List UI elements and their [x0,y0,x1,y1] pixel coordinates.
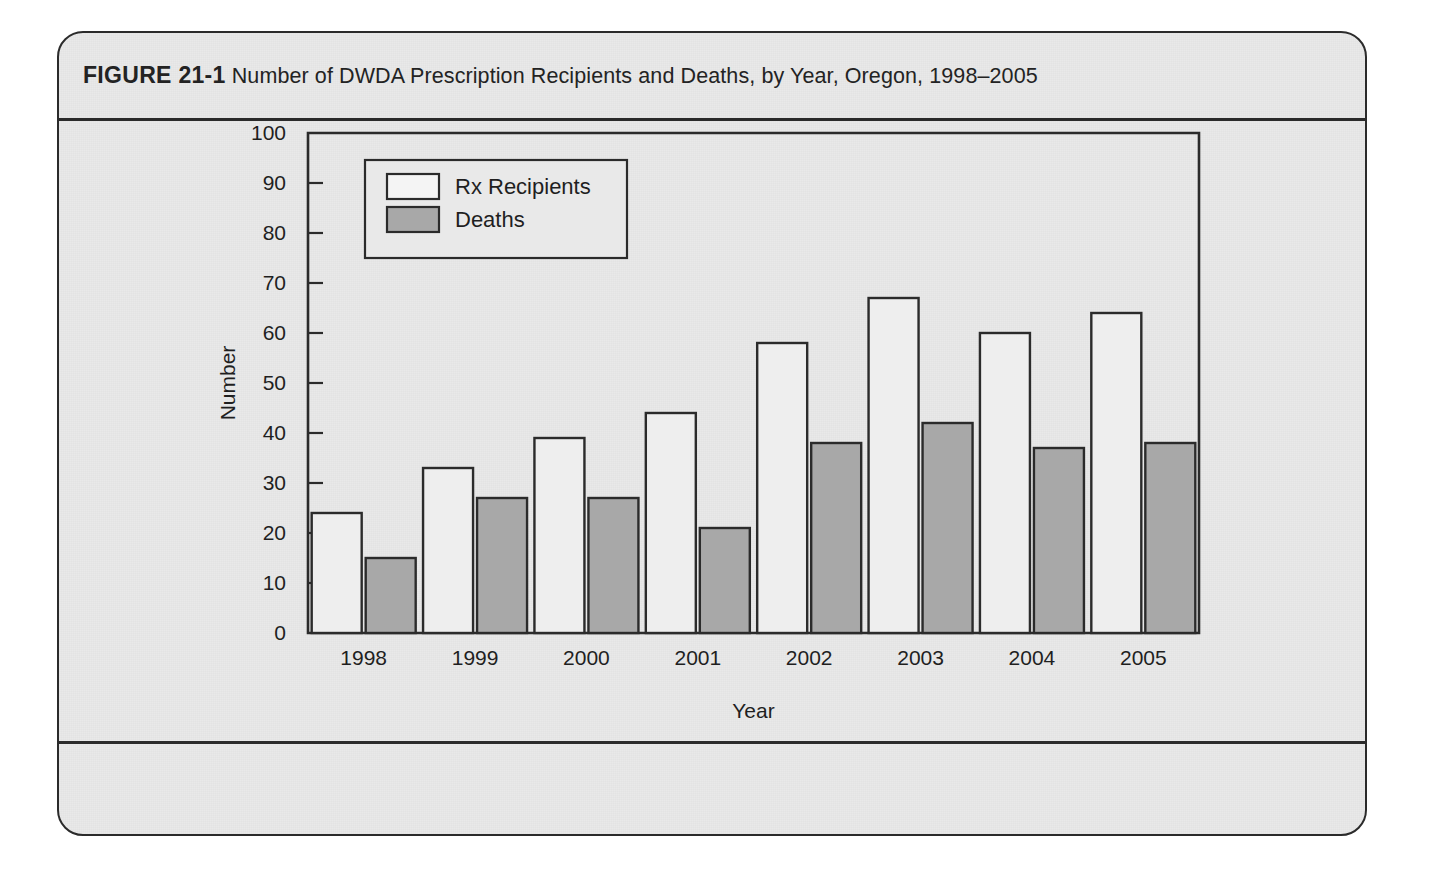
legend-label-deaths: Deaths [455,207,525,232]
x-axis-tick-label: 2000 [563,646,610,669]
bar-deaths-2002 [811,443,861,633]
chart-plate: 0102030405060708090100Number199819992000… [59,124,1365,744]
bar-rx-recipients-2005 [1091,313,1141,633]
x-axis-tick-label: 2001 [674,646,721,669]
bar-deaths-1999 [477,498,527,633]
legend-swatch-deaths [387,207,439,232]
figure-caption-band: FIGURE 21-1 Number of DWDA Prescription … [59,33,1365,121]
x-axis-tick-label: 1998 [340,646,387,669]
y-axis-tick-label: 50 [263,371,286,394]
bar-deaths-2005 [1145,443,1195,633]
bar-rx-recipients-1998 [312,513,362,633]
bar-rx-recipients-2000 [534,438,584,633]
y-axis-tick-label: 90 [263,171,286,194]
figure-caption-text: Number of DWDA Prescription Recipients a… [232,64,1038,88]
y-axis-tick-label: 30 [263,471,286,494]
legend-label-rx-recipients: Rx Recipients [455,174,591,199]
bar-deaths-2004 [1034,448,1084,633]
x-axis-tick-label: 2003 [897,646,944,669]
bar-deaths-2001 [700,528,750,633]
legend-swatch-rx-recipients [387,174,439,199]
y-axis-title: Number [216,346,239,421]
figure-container: FIGURE 21-1 Number of DWDA Prescription … [57,31,1367,836]
y-axis-tick-label: 0 [274,621,286,644]
bar-rx-recipients-2002 [757,343,807,633]
y-axis-tick-label: 70 [263,271,286,294]
bar-rx-recipients-2003 [869,298,919,633]
bar-rx-recipients-1999 [423,468,473,633]
y-axis-tick-label: 40 [263,421,286,444]
bar-deaths-2000 [588,498,638,633]
bar-deaths-2003 [923,423,973,633]
chart-svg: 0102030405060708090100Number199819992000… [59,124,1365,741]
x-axis-tick-label: 2005 [1120,646,1167,669]
x-axis-tick-label: 1999 [452,646,499,669]
y-axis-tick-label: 10 [263,571,286,594]
bar-chart: 0102030405060708090100Number199819992000… [59,124,1365,741]
figure-footer-band [59,743,1365,834]
y-axis-tick-label: 100 [251,124,286,144]
bar-deaths-1998 [366,558,416,633]
x-axis-tick-label: 2004 [1009,646,1056,669]
x-axis-tick-label: 2002 [786,646,833,669]
figure-number: FIGURE 21-1 [83,62,226,88]
x-axis-title: Year [732,699,774,722]
y-axis-tick-label: 60 [263,321,286,344]
bar-rx-recipients-2001 [646,413,696,633]
y-axis-tick-label: 20 [263,521,286,544]
y-axis-tick-label: 80 [263,221,286,244]
bar-rx-recipients-2004 [980,333,1030,633]
figure-caption: FIGURE 21-1 Number of DWDA Prescription … [83,62,1038,89]
